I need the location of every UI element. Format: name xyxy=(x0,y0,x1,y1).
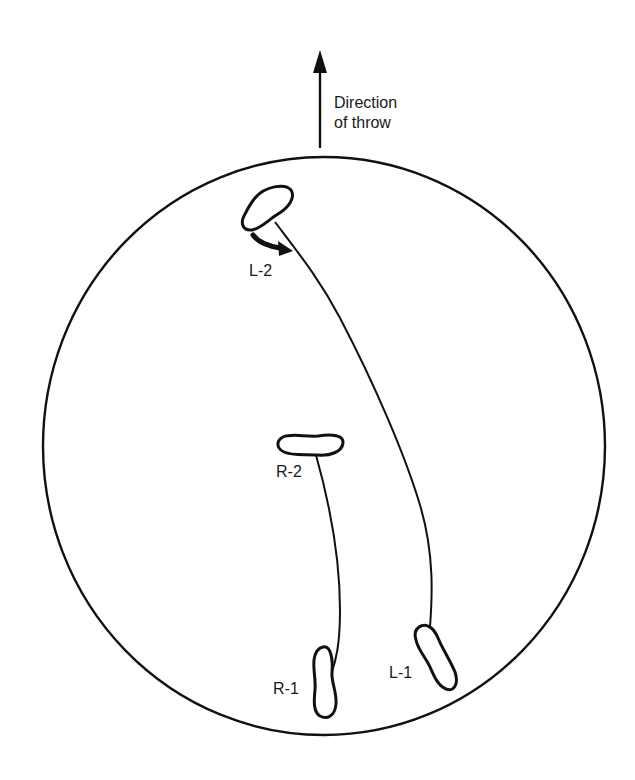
footprint-L-1 xyxy=(415,625,456,689)
footwork-diagram xyxy=(0,0,635,780)
footprint-L-2 xyxy=(242,186,292,230)
footprint-R-1 xyxy=(314,647,336,718)
direction-label-line2: of throw xyxy=(334,113,397,133)
footprint-R-2 xyxy=(278,435,343,455)
footprint-label-L-2: L-2 xyxy=(249,262,272,280)
left-foot-path xyxy=(275,222,432,627)
direction-arrow-icon xyxy=(313,50,327,148)
direction-of-throw-label: Direction of throw xyxy=(334,93,397,133)
direction-label-line1: Direction xyxy=(334,93,397,113)
footprint-label-R-1: R-1 xyxy=(273,680,299,698)
footprint-label-L-1: L-1 xyxy=(389,664,412,682)
footprint-label-R-2: R-2 xyxy=(276,463,302,481)
right-foot-path xyxy=(316,455,340,675)
